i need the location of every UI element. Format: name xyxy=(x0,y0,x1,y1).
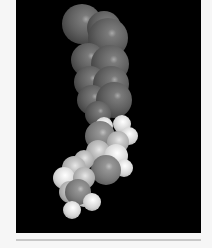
divider-line xyxy=(16,239,201,241)
atom-sphere xyxy=(91,155,121,185)
molecule-render-viewport xyxy=(16,0,201,233)
atom-sphere xyxy=(63,201,81,219)
atom-sphere xyxy=(83,193,101,211)
image-frame xyxy=(0,0,212,248)
